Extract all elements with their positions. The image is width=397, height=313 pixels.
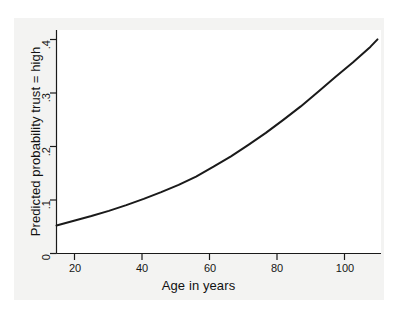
x-axis-ticks (75, 254, 345, 261)
x-tick-label-80: 80 (268, 262, 286, 274)
x-tick-label-40: 40 (133, 262, 151, 274)
data-line-series (57, 39, 378, 225)
x-tick-label-60: 60 (201, 262, 219, 274)
x-axis-title: Age in years (0, 278, 397, 293)
chart-figure: 20 40 60 80 100 0 .1 .2 .3 .4 Age in yea… (0, 0, 397, 313)
x-tick-label-100: 100 (333, 262, 357, 274)
y-axis-title: Predicted probability trust = high (28, 30, 46, 253)
y-tick-label-0: 0 (40, 254, 52, 270)
x-tick-label-20: 20 (66, 262, 84, 274)
